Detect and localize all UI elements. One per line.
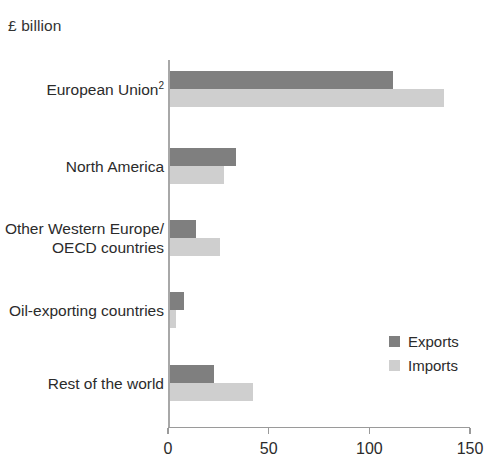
- category-label: Other Western Europe/OECD countries: [5, 219, 164, 257]
- axis-tick-mark: [369, 428, 371, 434]
- bar-exports: [170, 292, 184, 310]
- axis-tick-label: 0: [164, 440, 173, 455]
- chart-legend: ExportsImports: [389, 329, 459, 377]
- axis-tick-mark: [268, 428, 270, 434]
- bar-imports: [170, 238, 220, 256]
- legend-swatch-icon: [389, 336, 400, 347]
- category-label: European Union2: [46, 80, 164, 99]
- category-label: North America: [66, 157, 164, 176]
- category-label: Oil-exporting countries: [9, 301, 164, 320]
- legend-item: Imports: [389, 353, 459, 377]
- legend-swatch-icon: [389, 360, 400, 371]
- bar-imports: [170, 166, 224, 184]
- bar-exports: [170, 220, 196, 238]
- axis-tick-mark: [167, 428, 169, 434]
- axis-tick-mark: [469, 428, 471, 434]
- bar-imports: [170, 310, 176, 328]
- axis-tick-label: 150: [457, 440, 484, 455]
- bar-exports: [170, 148, 236, 166]
- unit-label: £ billion: [8, 17, 61, 35]
- bar-imports: [170, 89, 444, 107]
- category-label: Rest of the world: [48, 374, 164, 393]
- legend-label: Imports: [408, 357, 458, 374]
- category-axis-line: [168, 427, 470, 429]
- bar-imports: [170, 383, 253, 401]
- legend-item: Exports: [389, 329, 459, 353]
- axis-tick-label: 50: [260, 440, 278, 455]
- bar-chart: £ billion 050100150 European Union2North…: [0, 0, 488, 455]
- footnote-marker: 2: [158, 79, 164, 90]
- bar-exports: [170, 365, 214, 383]
- bar-exports: [170, 71, 393, 89]
- axis-tick-label: 100: [356, 440, 383, 455]
- legend-label: Exports: [408, 333, 459, 350]
